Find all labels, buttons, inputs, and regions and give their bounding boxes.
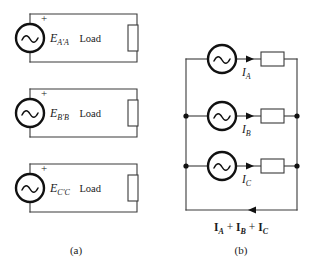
polarity-plus-phase-a: + [41,12,47,24]
source-label-sub-phase-a: A'A [56,38,69,47]
current-arrow-icon-branch-c [246,163,254,170]
junction-node-right-c [294,163,299,168]
panel-b-branch-a: IA [186,45,297,81]
polarity-plus-phase-c: + [41,162,47,174]
panel-a-circuit-phase-b: + Load EB'B [16,87,138,137]
current-label-branch-c: IC [241,173,252,188]
current-label-sub-branch-a: A [245,72,251,81]
current-label-sub-branch-c: C [246,179,252,188]
load-resistor-phase-a [128,25,138,51]
load-resistor-phase-c [128,175,138,201]
junction-node-left-c [183,163,188,168]
circuit-diagram-svg: + Load EA'A + Load EB'B + Lo [0,0,320,268]
load-resistor-branch-b [261,109,284,123]
panel-a-circuit-phase-a: + Load EA'A [16,12,138,62]
load-label-phase-c: Load [79,183,101,194]
current-label-branch-a: IA [241,66,251,81]
return-current-expression: IA + IB + IC [214,221,269,236]
current-arrow-icon-branch-b [246,113,254,120]
panel-b-caption: (b) [235,244,248,257]
source-label-sub-phase-b: B'B [57,113,69,122]
sum-operator-1: + [224,221,236,233]
junction-node-left-b [183,113,188,118]
panel-b-branch-b: IB [183,102,299,138]
panel-a-caption: (a) [70,244,83,257]
source-label-phase-b: EB'B [49,106,69,122]
load-label-phase-b: Load [79,108,101,119]
load-resistor-phase-b [128,100,138,126]
sum-operator-2: + [246,221,258,233]
source-label-phase-c: EC'C [49,181,70,197]
current-arrow-icon-branch-a [246,56,254,63]
current-label-branch-b: IB [241,123,251,138]
source-label-sub-phase-c: C'C [57,188,70,197]
panel-a-circuit-phase-c: + Load EC'C [16,162,138,212]
figure-root: + Load EA'A + Load EB'B + Lo [0,0,320,268]
wire-bottom-phase-b [30,125,137,137]
return-current-arrow-icon [248,207,256,214]
sum-term-3-sub: C [263,227,269,236]
source-label-phase-a: EA'A [49,31,69,47]
wire-bottom-phase-c [30,200,137,212]
current-label-sub-branch-b: B [246,129,251,138]
junction-node-right-b [294,113,299,118]
load-label-phase-a: Load [79,33,101,44]
polarity-plus-phase-b: + [41,87,47,99]
load-resistor-branch-a [261,52,284,66]
panel-b-branch-c: IC [183,152,299,188]
wire-bottom-phase-a [30,50,137,62]
load-resistor-branch-c [261,159,284,173]
